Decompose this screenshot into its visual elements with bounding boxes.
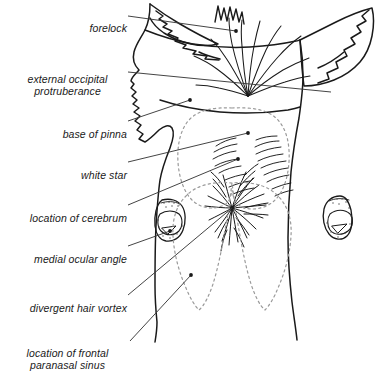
leader-dot-forelock bbox=[234, 29, 238, 33]
leader-dot-location-of-cerebrum bbox=[236, 157, 240, 161]
label-forelock: forelock bbox=[12, 9, 127, 34]
label-text: external occipital protruberance bbox=[27, 73, 107, 98]
label-white-star: white star bbox=[12, 156, 127, 181]
head-line-drawing bbox=[0, 0, 380, 375]
right-ear-outline bbox=[300, 8, 374, 86]
label-external-occipital-protruberance: external occipital protruberance bbox=[8, 60, 127, 98]
head-outline-right bbox=[288, 40, 303, 340]
label-location-of-frontal-paranasal-sinus: location of frontal paranasal sinus bbox=[8, 334, 127, 372]
label-text: divergent hair vortex bbox=[30, 302, 127, 314]
label-text: white star bbox=[81, 169, 127, 181]
label-divergent-hair-vortex: divergent hair vortex bbox=[4, 289, 127, 314]
right-ear-inner-edge bbox=[318, 10, 369, 83]
eyelid-stipple bbox=[157, 198, 351, 238]
label-medial-ocular-angle: medial ocular angle bbox=[6, 240, 127, 265]
left-ear-outline bbox=[150, 4, 218, 46]
frontal-ridge bbox=[160, 100, 300, 113]
leader-dot-location-of-frontal-paranasal-sinus bbox=[189, 273, 193, 277]
head-outline-left bbox=[131, 4, 173, 342]
left-ear-inner-edge bbox=[156, 11, 219, 60]
leader-location-of-frontal-paranasal-sinus bbox=[130, 275, 191, 341]
leader-base-of-pinna bbox=[128, 100, 190, 121]
leader-dot-medial-ocular-angle bbox=[168, 229, 172, 233]
leader-white-star bbox=[128, 133, 248, 162]
label-text: base of pinna bbox=[63, 128, 127, 140]
poll-outline bbox=[145, 30, 300, 47]
leader-medial-ocular-angle bbox=[128, 231, 170, 246]
label-text: location of frontal paranasal sinus bbox=[27, 347, 109, 372]
label-text: medial ocular angle bbox=[34, 253, 127, 265]
right-eye bbox=[323, 196, 352, 239]
label-location-of-cerebrum: location of cerebrum bbox=[4, 199, 127, 224]
leader-external-occipital-protruberance bbox=[128, 72, 331, 92]
leader-dot-white-star bbox=[246, 131, 250, 135]
white-star-hair-texture bbox=[213, 136, 293, 196]
leader-location-of-cerebrum bbox=[128, 159, 238, 205]
leader-forelock bbox=[128, 16, 236, 31]
label-base-of-pinna: base of pinna bbox=[12, 115, 127, 140]
anatomical-figure: forelock external occipital protruberanc… bbox=[0, 0, 380, 375]
leader-dot-base-of-pinna bbox=[188, 98, 192, 102]
label-text: location of cerebrum bbox=[30, 212, 127, 224]
leader-divergent-hair-vortex bbox=[128, 208, 232, 295]
label-text: forelock bbox=[89, 22, 127, 34]
